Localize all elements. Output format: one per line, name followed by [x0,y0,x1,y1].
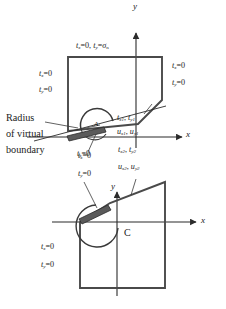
lower-left-tx-val: =0 [45,242,54,251]
lower-crack-tx-val: =0 [82,151,91,160]
upper-right-ty-val: =0 [176,78,185,87]
upper-left-tx-val: =0 [43,69,52,78]
upper-disp2-b-sub: y2 [135,166,140,171]
upper-region-a-label: A [94,121,98,128]
upper-traction1-a-sub: x1 [119,117,124,122]
figure-canvas: y x tx=0, ty=σn tx=0 ty=0 tx=0 ty=0 A Ra… [0,0,226,309]
radius-note-line-2: of virtual [6,129,44,140]
upper-left-tx-label: tx=0 [39,70,52,78]
upper-traction1-b-sub: y1 [130,117,135,122]
lower-curve-label: C [124,228,131,239]
upper-top-traction-label: tx=0, ty=σn [76,42,109,50]
upper-disp1-b-sub: y1 [134,131,139,136]
upper-traction2-b-sub: y2 [131,149,136,154]
upper-disp1-a-sub: x1 [121,131,126,136]
lower-crack [79,205,111,224]
lower-crack-leader [84,182,97,208]
upper-left-ty-val: =0 [43,85,52,94]
upper-right-tx-val: =0 [176,61,185,70]
upper-left-ty-label: ty=0 [39,86,52,94]
upper-disp1-label: ux1, uy1 [117,128,139,136]
lower-left-ty-val: =0 [45,260,54,269]
lower-x-axis-label: x [201,216,205,225]
upper-right-ty-label: ty=0 [172,79,185,87]
radius-note-line-1: Radius [6,113,34,124]
lower-left-ty-label: ty=0 [41,261,54,269]
upper-y-axis-label: y [133,2,137,11]
radius-note-line-3: boundary [6,145,44,156]
upper-top-sigma-sub: n [106,45,109,50]
lower-y-axis-label: y [111,182,115,191]
upper-disp2-a-sub: x2 [122,166,127,171]
upper-traction2-label: tx2, ty2 [118,146,136,154]
upper-disp2-label: ux2, uy2 [118,163,140,171]
lower-left-tx-label: tx=0 [41,243,54,251]
lower-crack-ty-label: ty=0 [78,170,91,178]
lower-crack-tx-label: tx=0 [78,152,91,160]
lower-crack-ty-val: =0 [82,169,91,178]
upper-top-tx-val: =0, [80,41,91,50]
upper-x-axis-label: x [186,130,190,139]
upper-traction1-label: tx1, ty1 [117,114,135,122]
upper-right-tx-label: tx=0 [172,62,185,70]
upper-traction2-a-sub: x2 [120,149,125,154]
upper-radius-leader [45,122,78,128]
lower-body-outline [80,182,165,288]
